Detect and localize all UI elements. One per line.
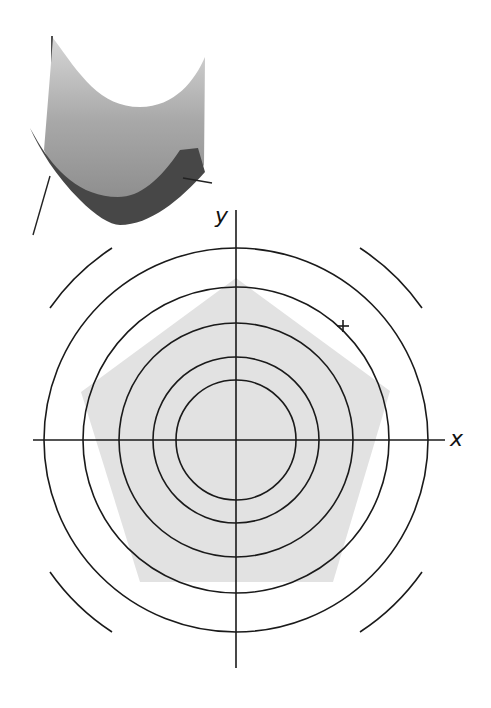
outer-arc-bottom-right: [360, 572, 422, 632]
y-axis-label: y: [215, 205, 228, 227]
plus-marker: [337, 320, 349, 332]
outer-arc-bottom-left: [50, 572, 112, 632]
outer-arc-top-left: [50, 248, 112, 308]
x-axis-label: x: [450, 428, 463, 450]
paraboloid-surface: [30, 36, 212, 235]
outer-arc-top-right: [360, 248, 422, 308]
figure-canvas: [0, 0, 491, 708]
surface-axis-left: [33, 176, 50, 235]
